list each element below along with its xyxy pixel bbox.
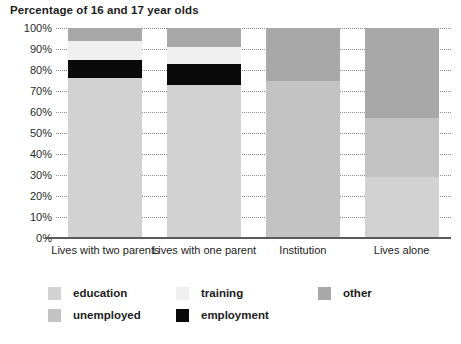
bar-segment-training[interactable] — [167, 47, 241, 64]
legend-item-unemployed[interactable]: unemployed — [48, 309, 176, 322]
legend-swatch-icon — [48, 287, 61, 300]
legend-row: unemployedemployment — [48, 304, 448, 326]
bar-segment-training[interactable] — [68, 41, 142, 60]
bar-segment-unemployed[interactable] — [266, 81, 340, 239]
bar-stack[interactable] — [167, 28, 241, 238]
bar-segment-education[interactable] — [167, 85, 241, 238]
legend-item-employment[interactable]: employment — [176, 309, 318, 322]
chart-legend: educationtrainingotherunemployedemployme… — [48, 282, 448, 326]
legend-item-training[interactable]: training — [176, 287, 318, 300]
legend-label: education — [73, 287, 127, 299]
y-axis-tick-label: 90% — [6, 43, 52, 55]
legend-swatch-icon — [176, 309, 189, 322]
bar-segment-other[interactable] — [365, 28, 439, 118]
bar-segment-education[interactable] — [68, 78, 142, 238]
chart-title: Percentage of 16 and 17 year olds — [10, 4, 199, 16]
y-axis-tick-label: 20% — [6, 190, 52, 202]
y-axis-tick-label: 30% — [6, 169, 52, 181]
legend-label: other — [343, 287, 372, 299]
legend-swatch-icon — [48, 309, 61, 322]
legend-row: educationtrainingother — [48, 282, 448, 304]
legend-label: training — [201, 287, 243, 299]
bar-segment-other[interactable] — [266, 28, 340, 81]
y-axis-tick-label: 10% — [6, 211, 52, 223]
legend-item-other[interactable]: other — [318, 287, 418, 300]
plot-area — [56, 28, 451, 238]
bar-segment-employment[interactable] — [167, 64, 241, 85]
y-axis-tick-label: 40% — [6, 148, 52, 160]
legend-label: employment — [201, 309, 269, 321]
bar-stack[interactable] — [365, 28, 439, 238]
y-axis-ticks: 0%10%20%30%40%50%60%70%80%90%100% — [0, 28, 52, 238]
bar-segment-employment[interactable] — [68, 60, 142, 79]
y-axis-tick-label: 60% — [6, 106, 52, 118]
bar-segment-education[interactable] — [365, 177, 439, 238]
x-axis-label: Lives alone — [342, 244, 461, 258]
legend-swatch-icon — [176, 287, 189, 300]
chart-page: Percentage of 16 and 17 year olds 0%10%2… — [0, 0, 461, 344]
bar-stack[interactable] — [266, 28, 340, 238]
legend-item-education[interactable]: education — [48, 287, 176, 300]
y-axis-tick-label: 50% — [6, 127, 52, 139]
bar-segment-unemployed[interactable] — [365, 118, 439, 177]
bar-segment-other[interactable] — [167, 28, 241, 47]
y-axis-tick-label: 80% — [6, 64, 52, 76]
legend-swatch-icon — [318, 287, 331, 300]
y-axis-tick-label: 70% — [6, 85, 52, 97]
legend-label: unemployed — [73, 309, 141, 321]
bar-stack[interactable] — [68, 28, 142, 238]
y-axis-tick-label: 100% — [6, 22, 52, 34]
x-axis-line — [45, 237, 451, 239]
bar-segment-other[interactable] — [68, 28, 142, 41]
